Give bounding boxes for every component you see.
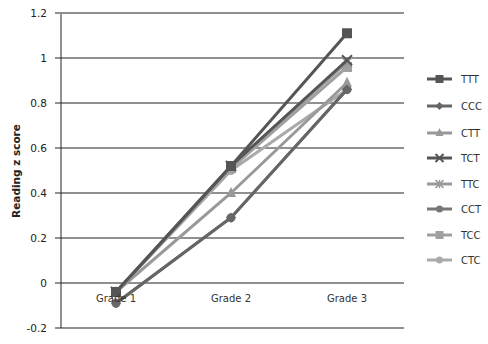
legend-label: CCC — [461, 101, 482, 112]
y-tick-label: 1.2 — [30, 7, 47, 19]
y-tick-label: 0 — [40, 277, 47, 289]
legend-item-cct: CCT — [427, 204, 482, 215]
legend-label: TCT — [460, 153, 481, 164]
series-tcc — [111, 62, 352, 297]
legend-item-ccc: CCC — [427, 101, 482, 112]
legend-item-tcc: TCC — [427, 230, 481, 241]
legend-label: TTT — [460, 74, 480, 85]
legend-item-ttt: TTT — [427, 74, 480, 85]
y-tick-label: -0.2 — [27, 322, 48, 334]
x-axis-categories: Grade 1Grade 2Grade 3 — [96, 293, 367, 304]
legend-item-ctt: CTT — [427, 128, 481, 139]
y-tick-label: 0.8 — [30, 97, 47, 109]
legend-label: CCT — [461, 204, 482, 215]
legend-item-ctc: CTC — [427, 255, 481, 266]
legend-item-tct: TCT — [427, 153, 481, 164]
y-tick-label: 0.6 — [30, 142, 47, 154]
y-axis-ticks: 1.210.80.60.40.20-0.2 — [27, 7, 62, 334]
data-series — [111, 28, 352, 308]
legend-item-ttc: TTC — [427, 179, 479, 190]
y-tick-label: 1 — [40, 52, 47, 64]
series-ttt — [111, 28, 352, 297]
y-tick-label: 0.4 — [30, 187, 47, 199]
legend: TTTCCCCTTTCTTTCCCTTCCCTC — [427, 74, 482, 266]
legend-label: TCC — [460, 230, 481, 241]
legend-label: CTT — [461, 128, 481, 139]
x-category-label: Grade 3 — [327, 293, 367, 304]
legend-label: CTC — [461, 255, 481, 266]
line-chart: 1.210.80.60.40.20-0.2 Reading z score Gr… — [0, 0, 488, 344]
x-category-label: Grade 1 — [96, 293, 136, 304]
legend-label: TTC — [460, 179, 479, 190]
x-category-label: Grade 2 — [211, 293, 251, 304]
y-axis-label: Reading z score — [10, 124, 22, 218]
y-tick-label: 0.2 — [30, 232, 47, 244]
